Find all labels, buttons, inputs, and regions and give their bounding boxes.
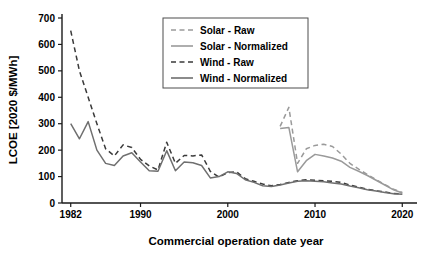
y-axis-label: LCOE [2020 $/MWh] bbox=[7, 56, 19, 165]
legend-item-label: Wind - Raw bbox=[200, 57, 254, 68]
y-tick-label: 200 bbox=[38, 145, 55, 156]
legend-item-label: Wind - Normalized bbox=[200, 73, 287, 84]
y-tick-label: 100 bbox=[38, 171, 55, 182]
chart-figure: 0100200300400500600700 19821990200020102… bbox=[0, 0, 423, 255]
x-axis-label: Commercial operation date year bbox=[148, 235, 324, 247]
y-tick-label: 300 bbox=[38, 118, 55, 129]
chart-legend: Solar - RawSolar - NormalizedWind - RawW… bbox=[163, 18, 308, 88]
legend-item-label: Solar - Normalized bbox=[200, 41, 288, 52]
lcoe-line-chart: 0100200300400500600700 19821990200020102… bbox=[0, 0, 423, 255]
y-tick-label: 700 bbox=[38, 13, 55, 24]
x-tick-label: 1990 bbox=[129, 209, 152, 220]
legend-item-label: Solar - Raw bbox=[200, 25, 255, 36]
x-tick-label: 2020 bbox=[391, 209, 414, 220]
y-tick-label: 0 bbox=[49, 198, 55, 209]
x-tick-label: 2000 bbox=[217, 209, 240, 220]
y-tick-label: 600 bbox=[38, 39, 55, 50]
y-tick-label: 500 bbox=[38, 65, 55, 76]
x-tick-label: 2010 bbox=[304, 209, 327, 220]
x-tick-label: 1982 bbox=[60, 209, 83, 220]
y-tick-label: 400 bbox=[38, 92, 55, 103]
